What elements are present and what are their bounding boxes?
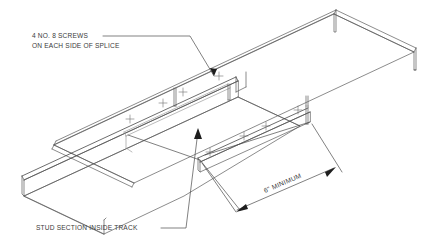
screws-note-line1: 4 NO. 8 SCREWS (32, 32, 88, 39)
dimension-extension-right (312, 124, 342, 172)
screw-mark (262, 122, 270, 130)
stud-leader-line (161, 131, 198, 228)
screws-note-leader (103, 36, 217, 76)
upper-track-left-inner-edge (54, 14, 334, 145)
splice-joint (236, 72, 246, 92)
upper-track-rear-top-edge (334, 14, 414, 52)
left-track-web-face (24, 81, 238, 196)
isometric-splice-detail: 4 NO. 8 SCREWS ON EACH SIDE OF SPLICE ST… (0, 0, 427, 246)
upper-track-front-thickness-left (52, 145, 54, 149)
screws-leader-line (103, 36, 214, 76)
screw-mark (206, 148, 214, 156)
lower-track-left-channel (22, 77, 300, 234)
dimension-extension-left (202, 163, 236, 212)
stud-left-web-bottom (126, 88, 230, 136)
construction-leader-c (205, 122, 310, 155)
dimension-arrowhead-right (325, 167, 336, 177)
screw-mark (215, 72, 223, 80)
construction-leader-b (200, 160, 240, 210)
right-track-top-flange-outer (198, 108, 308, 158)
stud-leader-arrowhead (194, 128, 202, 139)
right-track-web-face (200, 112, 310, 172)
upper-track-left-outer-edge (56, 10, 336, 141)
stud-left-return-lip (126, 136, 132, 152)
screw-marks-upper-row (126, 72, 223, 123)
construction-leader-a (128, 135, 200, 160)
screw-mark (126, 115, 134, 123)
dimension-6-inch-minimum (202, 124, 342, 212)
technical-drawing-canvas: 4 NO. 8 SCREWS ON EACH SIDE OF SPLICE ST… (0, 0, 427, 246)
screws-leader-arrowhead (210, 68, 217, 76)
left-track-top-flange-outer (22, 77, 236, 176)
upper-track-front-band-lower (52, 149, 132, 187)
stud-note-line1: STUD SECTION INSIDE TRACK (36, 224, 138, 231)
dimension-arrowhead-left (236, 204, 248, 212)
screw-marks-lower-row (206, 106, 302, 156)
screws-note-line2: ON EACH SIDE OF SPLICE (32, 42, 120, 49)
stud-section-left (124, 84, 230, 152)
screw-mark (179, 88, 187, 96)
splice-seam-bottom (236, 87, 246, 92)
screw-mark (159, 99, 167, 107)
left-track-bottom-lip-bend (104, 218, 106, 220)
stud-note-leader (161, 128, 202, 228)
upper-track-rear-flange-outer (336, 10, 416, 48)
dimension-line (237, 168, 334, 210)
upper-track-front-thickness-right (132, 183, 134, 187)
left-track-bottom-plane (24, 97, 300, 234)
